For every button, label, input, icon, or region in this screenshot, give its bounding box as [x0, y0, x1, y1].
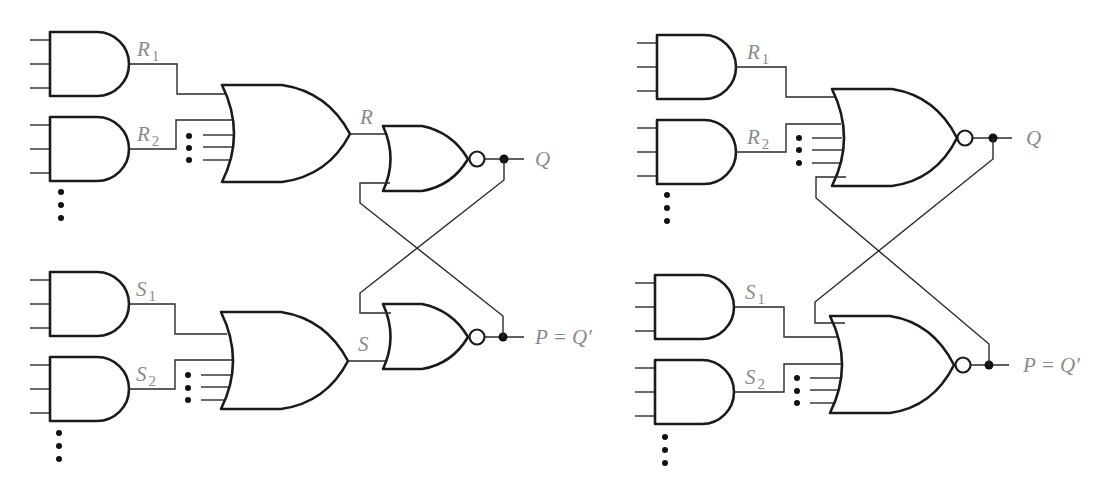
and-gate-s1 — [30, 272, 129, 336]
left-circuit: R1 R2 S1 S2 R S Q P = Q′ — [30, 32, 592, 462]
ellipsis-dots-r-right — [664, 192, 670, 224]
right-circuit: R1 R2 S1 S2 Q P = Q′ — [635, 35, 1080, 466]
and-gate-s2-right — [635, 360, 734, 424]
label-s: S — [358, 332, 369, 356]
label-r2: R2 — [136, 122, 159, 149]
label-s1-right: S1 — [745, 280, 765, 307]
nor-gate-top-right — [832, 89, 1012, 186]
or-gate-r — [222, 85, 350, 182]
and-gate-r2 — [30, 117, 129, 181]
and-gate-s1-right — [635, 275, 734, 339]
and-gate-r1 — [30, 32, 129, 96]
label-q: Q — [535, 147, 550, 171]
label-s2-right: S2 — [745, 365, 765, 392]
label-s1: S1 — [136, 277, 156, 304]
label-r1: R1 — [136, 37, 159, 64]
label-q-right: Q — [1026, 126, 1041, 150]
ellipsis-dots-s-right — [662, 434, 668, 466]
label-r1-right: R1 — [746, 40, 769, 67]
and-gate-r1-right — [637, 35, 736, 99]
nor-extra-inputs-r — [796, 135, 842, 166]
ellipsis-dots-r — [58, 189, 64, 221]
or-gate-s — [221, 312, 348, 409]
ellipsis-dots-s — [56, 430, 62, 462]
label-r: R — [359, 105, 373, 129]
label-p-equals-qprime-right: P = Q′ — [1022, 353, 1080, 377]
label-s2: S2 — [136, 362, 156, 389]
sr-latch-diagram: R1 R2 S1 S2 R S Q P = Q′ — [0, 0, 1104, 488]
and-gate-s2 — [30, 357, 129, 421]
or-extra-inputs-r — [186, 133, 233, 163]
and-gate-r2-right — [637, 120, 736, 184]
label-p-equals-qprime: P = Q′ — [534, 325, 592, 349]
nor-gate-bottom-right — [830, 316, 1009, 413]
label-r2-right: R2 — [746, 125, 769, 152]
